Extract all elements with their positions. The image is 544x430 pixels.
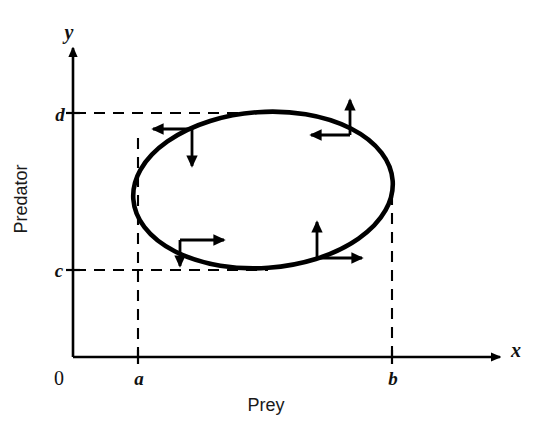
x-axis-variable-label: x: [510, 339, 521, 361]
tick-mark-group: [66, 113, 392, 364]
flow-arrow-group: [153, 100, 362, 266]
phase-plane-figure: y x 0 a b c d Prey Predator: [0, 0, 544, 430]
origin-label: 0: [54, 367, 64, 389]
x-axis-title: Prey: [247, 395, 284, 415]
phase-plane-diagram: y x 0 a b c d Prey Predator: [0, 0, 544, 430]
y-axis-variable-label: y: [63, 21, 74, 44]
tick-label-b: b: [388, 368, 398, 389]
tick-label-c: c: [55, 260, 64, 281]
y-axis-title: Predator: [11, 164, 31, 233]
guide-line-group: [75, 113, 392, 356]
tick-label-d: d: [55, 104, 65, 125]
tick-label-a: a: [134, 368, 144, 389]
